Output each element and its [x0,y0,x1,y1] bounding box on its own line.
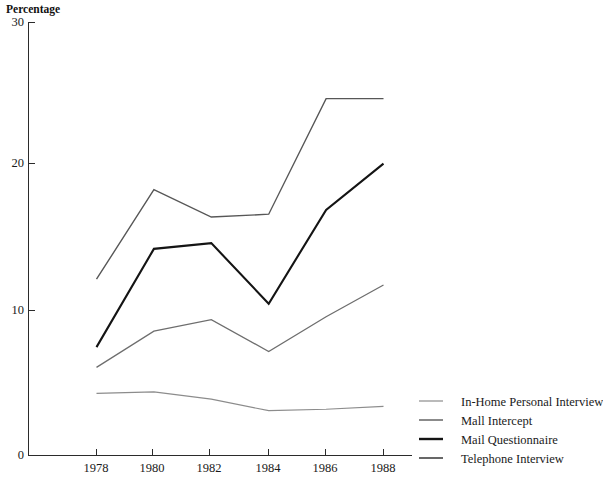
legend-swatches [417,392,457,472]
legend-item-in-home-personal-interview[interactable]: In-Home Personal Interview [461,395,603,410]
data-series-group [97,99,384,411]
legend-item-mail-questionnaire[interactable]: Mail Questionnaire [461,433,558,448]
y-axis-ticks [29,23,36,311]
series-line-mail-questionnaire [97,164,384,348]
legend-item-mall-intercept[interactable]: Mall Intercept [461,414,532,429]
legend-item-telephone-interview[interactable]: Telephone Interview [461,452,564,467]
series-line-telephone-interview [97,99,384,280]
series-line-mall-intercept [97,285,384,367]
series-line-in-home-personal-interview [97,392,384,411]
x-axis-ticks [97,449,384,456]
